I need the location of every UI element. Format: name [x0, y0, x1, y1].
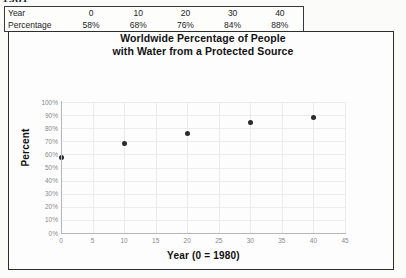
table-cell: 76%	[161, 19, 208, 32]
y-axis-tick-label: 100%	[32, 99, 58, 106]
y-axis-tick-label: 70%	[32, 138, 58, 145]
data-point	[311, 115, 316, 120]
y-axis-tick-label: 0%	[32, 230, 58, 237]
table-cell: 58%	[67, 19, 114, 32]
data-point	[185, 131, 190, 136]
gridline-vertical	[345, 102, 346, 233]
y-axis-tick-label: 10%	[32, 216, 58, 223]
data-point	[122, 141, 127, 146]
gridline-horizontal	[61, 168, 345, 169]
y-axis-tick-label: 30%	[32, 190, 58, 197]
table-cell: 30	[209, 7, 256, 20]
gridline-vertical	[156, 102, 157, 233]
y-axis-tick-label: 50%	[32, 164, 58, 171]
gridline-vertical	[282, 102, 283, 233]
x-axis-tick-label: 10	[114, 237, 134, 245]
table-cell: 84%	[209, 19, 256, 32]
x-axis-title: Year (0 = 1980)	[61, 250, 346, 261]
gridline-horizontal	[61, 128, 345, 129]
table-cell: 68%	[114, 19, 161, 32]
table-cell: 88%	[256, 19, 304, 32]
x-axis-ticks: 051015202530354045	[0, 237, 406, 247]
x-axis-tick-label: 20	[177, 237, 197, 245]
x-axis-line	[61, 233, 346, 234]
y-axis-tick-label: 20%	[32, 203, 58, 210]
chart-title: Worldwide Percentage of People with Wate…	[0, 32, 406, 58]
top-partial-text: 1981	[2, 0, 28, 2]
gridline-horizontal	[61, 194, 345, 195]
y-axis-line	[61, 101, 62, 234]
y-axis-tick-label: 80%	[32, 125, 58, 132]
gridline-horizontal	[61, 154, 345, 155]
y-axis-title: Percent	[20, 113, 31, 183]
gridline-horizontal	[61, 115, 345, 116]
gridline-vertical	[124, 102, 125, 233]
gridline-horizontal	[61, 207, 345, 208]
gridline-vertical	[93, 102, 94, 233]
gridline-horizontal	[61, 102, 345, 103]
chart-title-line-1: Worldwide Percentage of People	[120, 32, 286, 44]
gridline-horizontal	[61, 220, 345, 221]
x-axis-tick-label: 15	[146, 237, 166, 245]
x-axis-tick-label: 45	[335, 237, 355, 245]
x-axis-tick-label: 35	[272, 237, 292, 245]
x-axis-tick-label: 0	[51, 237, 71, 245]
x-axis-tick-label: 30	[240, 237, 260, 245]
x-axis-tick-label: 5	[83, 237, 103, 245]
gridline-horizontal	[61, 141, 345, 142]
gridline-horizontal	[61, 181, 345, 182]
chart-title-line-2: with Water from a Protected Source	[0, 45, 406, 58]
y-axis-tick-label: 90%	[32, 112, 58, 119]
x-axis-tick-label: 40	[303, 237, 323, 245]
data-point	[248, 120, 253, 125]
y-axis-tick-label: 60%	[32, 151, 58, 158]
table-cell: 20	[161, 7, 208, 20]
x-axis-tick-label: 25	[209, 237, 229, 245]
plot-area	[61, 102, 345, 233]
y-axis-tick-label: 40%	[32, 177, 58, 184]
gridline-vertical	[187, 102, 188, 233]
table-cell: 40	[256, 7, 304, 20]
table-cell: 0	[67, 7, 114, 20]
table-cell: 10	[114, 7, 161, 20]
gridline-vertical	[219, 102, 220, 233]
gridline-vertical	[313, 102, 314, 233]
